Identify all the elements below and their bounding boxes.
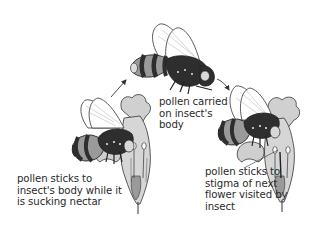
caption-stage-3: pollen sticks to stigma of next flower v… bbox=[205, 166, 295, 212]
caption-stage-1: pollen sticks to insect's body while it … bbox=[17, 173, 127, 208]
arrow-stage1-to-stage2 bbox=[111, 80, 126, 97]
bee-middle bbox=[130, 24, 215, 94]
arrow-stage2-to-stage3 bbox=[217, 79, 229, 90]
pollination-diagram: pollen sticks to insect's body while it … bbox=[0, 0, 318, 229]
caption-stage-2: pollen carried on insect's body bbox=[159, 96, 239, 131]
